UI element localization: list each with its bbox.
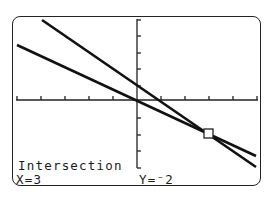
x-readout: X=3	[16, 174, 42, 187]
line-y2	[42, 20, 256, 167]
intersection-cursor-icon	[204, 129, 213, 138]
y-axis	[137, 19, 141, 168]
y-readout: Y=⁻2	[139, 174, 174, 187]
mode-label: Intersection	[18, 160, 123, 173]
